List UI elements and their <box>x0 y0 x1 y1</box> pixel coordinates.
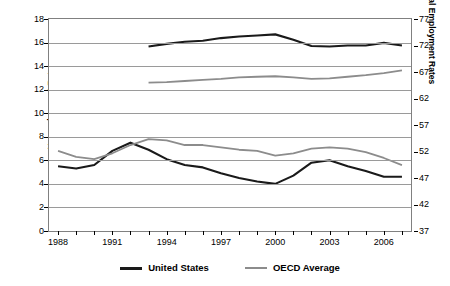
legend-line-icon <box>120 267 142 270</box>
x-axis-tick-mark <box>112 231 113 235</box>
x-axis-tick-label: 2003 <box>320 238 340 247</box>
left-axis-tick-label: 12 <box>34 85 44 94</box>
legend-line-icon <box>245 267 267 270</box>
x-axis-tick-mark <box>293 231 294 235</box>
left-axis-tick-label: 14 <box>34 62 44 71</box>
series-line-4 <box>149 70 402 82</box>
x-axis-tick-mark <box>384 231 385 235</box>
x-axis-tick-mark <box>239 231 240 235</box>
gridline <box>49 90 411 91</box>
chart-container: 024681012141618 Unemployment Rates as % … <box>0 0 450 286</box>
chart-legend: United StatesOECD Average <box>48 258 412 278</box>
right-axis-title: Total Employment Rates <box>427 0 437 95</box>
right-axis-tick-label: 47 <box>419 174 429 183</box>
x-axis-tick-mark <box>185 231 186 235</box>
x-axis-tick-mark <box>348 231 349 235</box>
right-axis-tick-label: 57 <box>419 121 429 130</box>
gridline <box>49 207 411 208</box>
x-axis-tick-mark <box>58 231 59 235</box>
x-axis-tick-mark <box>203 231 204 235</box>
x-axis-tick-mark <box>130 231 131 235</box>
x-axis-tick-label: 1988 <box>48 238 68 247</box>
x-axis-tick-label: 1997 <box>211 238 231 247</box>
left-axis-tick-label: 10 <box>34 109 44 118</box>
right-axis-tick-label: 42 <box>419 200 429 209</box>
x-axis-tick-mark <box>311 231 312 235</box>
x-axis-tick-mark <box>76 231 77 235</box>
x-axis-tick-mark <box>330 231 331 235</box>
right-axis-tick-label: 37 <box>419 227 429 236</box>
right-axis-tick-mark <box>414 231 418 232</box>
gridline <box>49 160 411 161</box>
gridline <box>49 137 411 138</box>
gridline <box>49 66 411 67</box>
x-axis-tick-mark <box>366 231 367 235</box>
x-axis-tick-mark <box>94 231 95 235</box>
x-axis-tick-mark <box>257 231 258 235</box>
x-axis-tick-mark <box>149 231 150 235</box>
x-axis-tick-mark <box>221 231 222 235</box>
legend-label: OECD Average <box>273 263 340 273</box>
right-axis-tick-mark <box>414 178 418 179</box>
x-axis-tick-label: 1994 <box>157 238 177 247</box>
legend-item[interactable]: United States <box>120 263 209 273</box>
x-axis-tick-label: 1991 <box>102 238 122 247</box>
left-axis-tick-label: 16 <box>34 38 44 47</box>
right-axis-tick-mark <box>414 19 418 20</box>
legend-label: United States <box>148 263 209 273</box>
left-axis: 024681012141618 <box>14 0 44 286</box>
gridline <box>49 184 411 185</box>
right-axis-tick-label: 62 <box>419 94 429 103</box>
right-axis-tick-mark <box>414 152 418 153</box>
x-axis-tick-mark <box>275 231 276 235</box>
left-axis-tick-label: 18 <box>34 15 44 24</box>
data-lines <box>49 19 411 231</box>
plot-area <box>48 18 412 232</box>
right-axis-tick-mark <box>414 99 418 100</box>
series-line-3 <box>149 34 402 46</box>
x-axis-tick-mark <box>167 231 168 235</box>
right-axis-tick-mark <box>414 125 418 126</box>
right-axis-tick-label: 52 <box>419 147 429 156</box>
right-axis-tick-mark <box>414 46 418 47</box>
right-axis-tick-mark <box>414 205 418 206</box>
legend-item[interactable]: OECD Average <box>245 263 340 273</box>
x-axis-tick-mark <box>402 231 403 235</box>
gridline <box>49 113 411 114</box>
x-axis-tick-label: 2006 <box>374 238 394 247</box>
gridline <box>49 43 411 44</box>
right-axis-tick-mark <box>414 72 418 73</box>
x-axis-tick-label: 2000 <box>265 238 285 247</box>
